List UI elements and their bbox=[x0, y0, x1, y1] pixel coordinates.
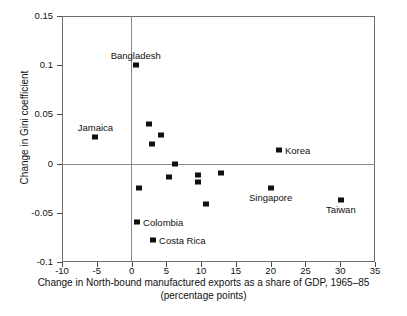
plot-area bbox=[62, 16, 375, 262]
scatter-chart-figure: 0.150.10.050-0.05-0.1-10-505101520253035… bbox=[0, 0, 407, 316]
point-label-bangladesh: Bangladesh bbox=[111, 50, 161, 61]
data-point bbox=[195, 173, 201, 178]
data-point bbox=[146, 122, 152, 127]
x-axis-tick-label: -5 bbox=[82, 265, 112, 276]
x-axis-tick-label: 35 bbox=[360, 265, 390, 276]
y-axis-tick-label: 0.15 bbox=[1, 11, 53, 21]
data-point bbox=[203, 201, 209, 206]
y-axis-tick bbox=[57, 65, 62, 66]
data-point bbox=[218, 171, 224, 176]
point-label-costa-rica: Costa Rica bbox=[159, 235, 205, 246]
data-point-jamaica bbox=[92, 135, 98, 140]
y-axis-tick-label: -0.1 bbox=[1, 257, 53, 267]
data-point-costa-rica bbox=[150, 238, 156, 243]
x-axis-tick-label: 0 bbox=[117, 265, 147, 276]
zero-line-horizontal bbox=[62, 164, 375, 165]
x-axis-tick-label: 20 bbox=[256, 265, 286, 276]
data-point-bangladesh bbox=[133, 63, 139, 68]
data-point bbox=[158, 133, 164, 138]
data-point-colombia bbox=[134, 219, 140, 224]
y-axis-tick bbox=[57, 213, 62, 214]
point-label-jamaica: Jamaica bbox=[78, 122, 113, 133]
data-point bbox=[166, 175, 172, 180]
point-label-taiwan: Taiwan bbox=[326, 204, 356, 215]
x-axis-tick-label: 30 bbox=[325, 265, 355, 276]
point-label-colombia: Colombia bbox=[143, 216, 183, 227]
point-label-korea: Korea bbox=[285, 144, 310, 155]
y-axis-title: Change in Gini coefficient bbox=[19, 28, 30, 228]
x-axis-title-line1: Change in North-bound manufactured expor… bbox=[38, 277, 370, 288]
y-axis-tick bbox=[57, 164, 62, 165]
data-point bbox=[195, 180, 201, 185]
x-axis-title: Change in North-bound manufactured expor… bbox=[0, 277, 407, 302]
x-axis-tick-label: -10 bbox=[47, 265, 77, 276]
data-point-taiwan bbox=[338, 198, 344, 203]
x-axis-tick-label: 5 bbox=[151, 265, 181, 276]
x-axis-tick-label: 10 bbox=[186, 265, 216, 276]
y-axis-tick-label-wrap: -0.1 bbox=[0, 257, 53, 267]
point-label-singapore: Singapore bbox=[249, 192, 292, 203]
data-point-korea bbox=[276, 147, 282, 152]
y-axis-tick-label-wrap: 0.15 bbox=[0, 11, 53, 21]
data-point-singapore bbox=[268, 186, 274, 191]
data-point bbox=[172, 161, 178, 166]
x-axis-tick-label: 15 bbox=[221, 265, 251, 276]
data-point bbox=[149, 141, 155, 146]
x-axis-title-line2: (percentage points) bbox=[0, 290, 407, 303]
y-axis-tick bbox=[57, 114, 62, 115]
x-axis-tick-label: 25 bbox=[290, 265, 320, 276]
y-axis-tick bbox=[57, 16, 62, 17]
data-point bbox=[136, 186, 142, 191]
